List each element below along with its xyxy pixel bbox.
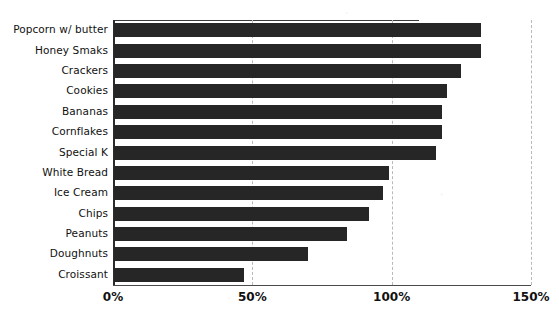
y-axis-label: Popcorn w/ butter <box>0 24 108 35</box>
plot-top-border <box>113 20 419 21</box>
bar[interactable] <box>114 186 383 200</box>
bar[interactable] <box>114 207 369 221</box>
plot-area <box>113 20 531 285</box>
bar[interactable] <box>114 146 436 160</box>
bar[interactable] <box>114 125 442 139</box>
y-axis-label: Chips <box>0 208 108 219</box>
y-axis-category-labels: Popcorn w/ butterHoney SmaksCrackersCook… <box>0 20 108 285</box>
x-axis-tick-label: 100% <box>373 290 410 304</box>
y-axis-label: Croissant <box>0 269 108 280</box>
x-axis-line <box>113 285 531 286</box>
bar[interactable] <box>114 268 244 282</box>
x-axis-tick-label: 150% <box>512 290 549 304</box>
y-axis-label: Honey Smaks <box>0 45 108 56</box>
y-axis-label: White Bread <box>0 167 108 178</box>
bar[interactable] <box>114 227 347 241</box>
y-axis-label: Bananas <box>0 106 108 117</box>
x-axis-tick-labels: 0%50%100%150% <box>0 290 559 310</box>
bar[interactable] <box>114 23 481 37</box>
y-axis-label: Crackers <box>0 65 108 76</box>
bar[interactable] <box>114 64 461 78</box>
y-axis-label: Special K <box>0 147 108 158</box>
x-axis-tick-label: 50% <box>238 290 267 304</box>
bar[interactable] <box>114 44 481 58</box>
bar[interactable] <box>114 247 308 261</box>
bar[interactable] <box>114 105 442 119</box>
gridline-150pct <box>531 20 532 285</box>
y-axis-label: Doughnuts <box>0 248 108 259</box>
y-axis-label: Cookies <box>0 85 108 96</box>
bar[interactable] <box>114 166 389 180</box>
y-axis-label: Peanuts <box>0 228 108 239</box>
y-axis-label: Ice Cream <box>0 187 108 198</box>
bar[interactable] <box>114 84 447 98</box>
bar-chart: Popcorn w/ butterHoney SmaksCrackersCook… <box>0 0 559 324</box>
y-axis-label: Cornflakes <box>0 126 108 137</box>
x-axis-tick-label: 0% <box>103 290 123 304</box>
